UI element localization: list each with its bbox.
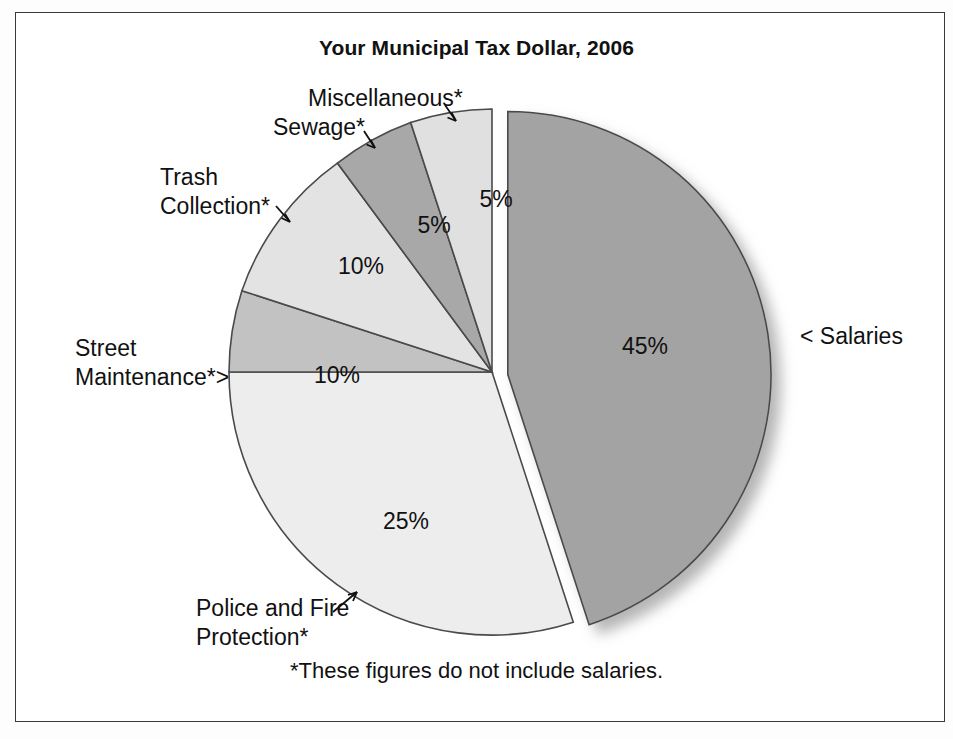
slice-value-trash-collection: 10% xyxy=(338,253,384,279)
footnote-text: *These figures do not include salaries. xyxy=(0,658,953,684)
callout-label-miscellaneous: Miscellaneous* xyxy=(308,84,486,113)
slice-value-salaries: 45% xyxy=(622,333,668,359)
callout-label-trash-collection: Trash Collection* xyxy=(160,163,290,221)
slice-value-sewage: 5% xyxy=(417,212,450,238)
slice-value-street-maintenance: 10% xyxy=(314,362,360,388)
callout-label-salaries: < Salaries xyxy=(800,322,940,351)
slice-value-police-fire: 25% xyxy=(383,508,429,534)
callout-label-street-maintenance: Street Maintenance*> xyxy=(75,334,227,392)
slice-value-miscellaneous: 5% xyxy=(479,186,512,212)
figure-container: Your Municipal Tax Dollar, 2006 45% 25% … xyxy=(0,0,953,739)
callout-label-sewage: Sewage* xyxy=(273,113,383,142)
callout-label-police-fire: Police and Fire Protection* xyxy=(196,594,386,652)
